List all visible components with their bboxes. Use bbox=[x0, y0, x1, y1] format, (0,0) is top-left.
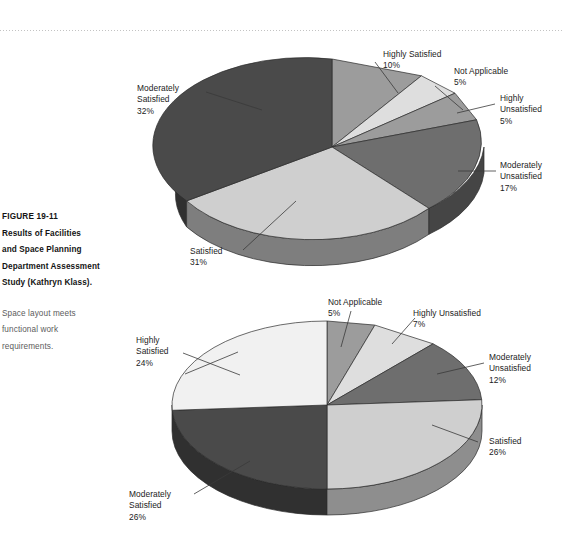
label-top-moderately-unsatisfied: Moderately Unsatisfied 17% bbox=[500, 160, 542, 194]
label-bottom-highly-unsatisfied-pct: 7% bbox=[413, 319, 481, 330]
label-top-moderately-unsatisfied-line-2: Unsatisfied bbox=[500, 171, 542, 182]
label-top-highly-satisfied: Highly Satisfied 10% bbox=[383, 49, 442, 72]
label-bottom-highly-satisfied-line-2: Satisfied bbox=[136, 346, 169, 357]
label-bottom-moderately-satisfied-line-1: Moderately bbox=[129, 489, 171, 500]
slice-bottom-highly-satisfied bbox=[172, 321, 327, 410]
pie-chart-bottom bbox=[172, 311, 484, 515]
label-top-not-applicable: Not Applicable 5% bbox=[454, 66, 508, 89]
label-top-highly-unsatisfied: Highly Unsatisfied 5% bbox=[500, 93, 542, 127]
label-top-moderately-satisfied: Moderately Satisfied 32% bbox=[137, 83, 179, 117]
label-bottom-highly-satisfied: Highly Satisfied 24% bbox=[136, 335, 169, 369]
label-bottom-not-applicable-pct: 5% bbox=[328, 308, 382, 319]
label-top-not-applicable-name: Not Applicable bbox=[454, 66, 508, 77]
label-bottom-moderately-unsatisfied-pct: 12% bbox=[489, 375, 531, 386]
label-top-satisfied-name: Satisfied bbox=[190, 246, 223, 257]
label-bottom-moderately-unsatisfied-line-2: Unsatisfied bbox=[489, 363, 531, 374]
figure-page: FIGURE 19-11 Results of Facilities and S… bbox=[0, 0, 562, 535]
label-bottom-moderately-satisfied: Moderately Satisfied 26% bbox=[129, 489, 171, 523]
label-top-moderately-unsatisfied-line-1: Moderately bbox=[500, 160, 542, 171]
label-top-highly-satisfied-name: Highly Satisfied bbox=[383, 49, 442, 60]
label-top-moderately-satisfied-pct: 32% bbox=[137, 106, 179, 117]
label-bottom-highly-satisfied-line-1: Highly bbox=[136, 335, 169, 346]
label-top-moderately-unsatisfied-pct: 17% bbox=[500, 183, 542, 194]
label-bottom-moderately-unsatisfied: Moderately Unsatisfied 12% bbox=[489, 352, 531, 386]
label-bottom-not-applicable-name: Not Applicable bbox=[328, 297, 382, 308]
label-bottom-moderately-satisfied-pct: 26% bbox=[129, 512, 171, 523]
label-top-satisfied-pct: 31% bbox=[190, 257, 223, 268]
label-top-highly-satisfied-pct: 10% bbox=[383, 60, 442, 71]
label-bottom-highly-unsatisfied-name: Highly Unsatisfied bbox=[413, 308, 481, 319]
label-top-moderately-satisfied-line-1: Moderately bbox=[137, 83, 179, 94]
label-bottom-highly-satisfied-pct: 24% bbox=[136, 358, 169, 369]
pie-chart-top bbox=[153, 58, 496, 266]
label-bottom-moderately-unsatisfied-line-1: Moderately bbox=[489, 352, 531, 363]
label-bottom-satisfied-name: Satisfied bbox=[489, 436, 522, 447]
label-top-highly-unsatisfied-line-2: Unsatisfied bbox=[500, 104, 542, 115]
label-top-moderately-satisfied-line-2: Satisfied bbox=[137, 94, 179, 105]
label-top-highly-unsatisfied-line-1: Highly bbox=[500, 93, 542, 104]
label-top-not-applicable-pct: 5% bbox=[454, 77, 508, 88]
label-bottom-highly-unsatisfied: Highly Unsatisfied 7% bbox=[413, 308, 481, 331]
label-bottom-moderately-satisfied-line-2: Satisfied bbox=[129, 500, 171, 511]
label-bottom-satisfied: Satisfied 26% bbox=[489, 436, 522, 459]
label-bottom-not-applicable: Not Applicable 5% bbox=[328, 297, 382, 320]
slice-bottom-moderately-satisfied bbox=[172, 405, 327, 489]
label-bottom-satisfied-pct: 26% bbox=[489, 447, 522, 458]
label-top-satisfied: Satisfied 31% bbox=[190, 246, 223, 269]
label-top-highly-unsatisfied-pct: 5% bbox=[500, 116, 542, 127]
